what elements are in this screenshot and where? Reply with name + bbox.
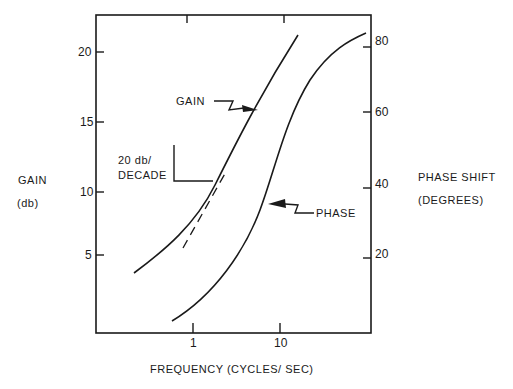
- right-tick-label: 40: [375, 177, 388, 191]
- phase-callout-leader: [285, 204, 314, 213]
- left-tick-label: 20: [78, 45, 91, 59]
- phase-arrowhead-icon: [268, 199, 286, 208]
- left-axis-unit: (db): [17, 197, 39, 209]
- gain-callout-label: GAIN: [176, 95, 205, 107]
- phase-callout-label: PHASE: [316, 207, 356, 219]
- gain-curve: [134, 35, 298, 273]
- right-tick-label: 20: [375, 247, 388, 261]
- phase-curve: [172, 33, 366, 321]
- left-tick-label: 15: [80, 115, 93, 129]
- right-tick-label: 60: [375, 105, 388, 119]
- slope-marker: [174, 145, 213, 181]
- left-tick-label: 10: [80, 185, 93, 199]
- x-axis-title: FREQUENCY (CYCLES/ SEC): [150, 363, 314, 375]
- left-axis-ticks: [96, 52, 104, 255]
- right-axis-title: PHASE SHIFT: [418, 171, 496, 183]
- slope-label-line2: DECADE: [118, 169, 167, 181]
- right-tick-label: 80: [375, 34, 388, 48]
- bottom-tick-label: 1: [190, 336, 197, 350]
- gain-callout-leader: [214, 101, 244, 110]
- right-axis-ticks: [363, 47, 371, 258]
- left-axis-title: GAIN: [18, 174, 47, 186]
- left-tick-label: 5: [85, 248, 92, 262]
- bottom-tick-label: 10: [274, 336, 287, 350]
- right-axis-unit: (DEGREES): [418, 194, 484, 206]
- slope-label-line1: 20 db/: [118, 154, 152, 166]
